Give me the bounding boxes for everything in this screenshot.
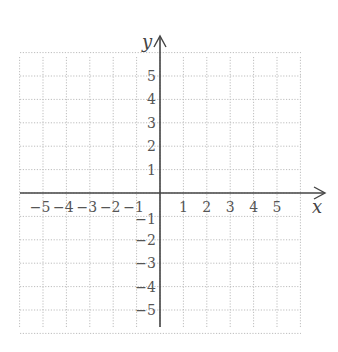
y-tick-label: 1 <box>147 162 156 178</box>
x-axis-label: x <box>312 196 322 217</box>
x-tick-label: 1 <box>179 199 188 215</box>
x-tick-label: 3 <box>226 199 235 215</box>
x-tick-label: −4 <box>53 199 74 215</box>
x-tick-label: −3 <box>76 199 97 215</box>
coordinate-plane: −5−4−3−2−112345 54321−1−2−3−4−5 x y <box>0 0 338 352</box>
y-tick-label: −5 <box>135 302 156 318</box>
x-tick-label: 2 <box>202 199 211 215</box>
x-tick-label: −2 <box>100 199 121 215</box>
y-tick-label: −2 <box>135 232 156 248</box>
y-tick-label: −4 <box>135 279 156 295</box>
y-tick-label: 2 <box>147 138 156 154</box>
y-axis-label: y <box>141 31 153 52</box>
x-tick-label: −5 <box>30 199 51 215</box>
x-tick-label: 5 <box>273 199 282 215</box>
x-tick-label: 4 <box>249 199 258 215</box>
y-tick-label: 3 <box>147 115 156 131</box>
y-tick-label: −1 <box>135 211 156 227</box>
axes <box>20 36 325 327</box>
y-tick-label: 4 <box>147 91 156 107</box>
y-tick-label: 5 <box>147 68 156 84</box>
y-tick-label: −3 <box>135 255 156 271</box>
